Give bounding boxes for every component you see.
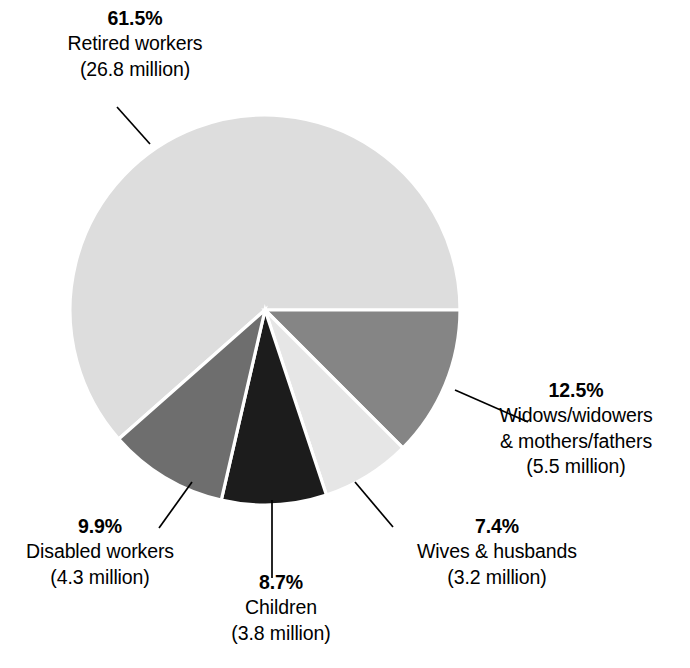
- leader-line-wives: [355, 482, 393, 527]
- slice-percent-widows: 12.5%: [468, 378, 684, 403]
- slice-name-disabled: Disabled workers: [0, 539, 200, 564]
- slice-label-wives: 7.4% Wives & husbands (3.2 million): [402, 514, 592, 590]
- slice-amount-wives: (3.2 million): [402, 565, 592, 590]
- slice-label-disabled: 9.9% Disabled workers (4.3 million): [0, 514, 200, 590]
- slice-amount-widows: (5.5 million): [468, 454, 684, 479]
- slice-label-widows: 12.5% Widows/widowers & mothers/fathers …: [468, 378, 684, 479]
- slice-label-children: 8.7% Children (3.8 million): [196, 570, 366, 646]
- slice-name-retired: Retired workers: [30, 31, 240, 56]
- leader-line-retired: [117, 107, 150, 144]
- pie-chart: 61.5% Retired workers (26.8 million) 12.…: [0, 0, 690, 668]
- slice-percent-wives: 7.4%: [402, 514, 592, 539]
- slice-percent-disabled: 9.9%: [0, 514, 200, 539]
- slice-amount-children: (3.8 million): [196, 621, 366, 646]
- slice-amount-disabled: (4.3 million): [0, 565, 200, 590]
- slice-amount-retired: (26.8 million): [30, 57, 240, 82]
- slice-name-widows-line2: & mothers/fathers: [468, 429, 684, 454]
- slice-percent-children: 8.7%: [196, 570, 366, 595]
- slice-label-retired: 61.5% Retired workers (26.8 million): [30, 6, 240, 82]
- slice-percent-retired: 61.5%: [30, 6, 240, 31]
- slice-name-widows-line1: Widows/widowers: [468, 403, 684, 428]
- slice-name-children: Children: [196, 595, 366, 620]
- slice-name-wives: Wives & husbands: [402, 539, 592, 564]
